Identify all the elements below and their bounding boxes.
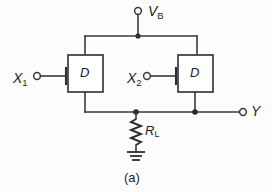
input1-terminal-circle[interactable]	[34, 73, 41, 80]
bottom-drops	[85, 92, 195, 112]
resistor-zigzag-icon	[131, 119, 141, 145]
bias-terminal-label: VB	[148, 4, 164, 20]
output-node-dot	[192, 109, 198, 115]
diode1-label: D	[80, 66, 89, 79]
figure-caption: (a)	[124, 171, 140, 184]
top-bus-rail	[85, 36, 197, 55]
ground-symbol-icon	[127, 152, 145, 160]
load-resistor-symbol[interactable]	[131, 112, 141, 152]
bias-terminal-circle[interactable]	[135, 8, 142, 15]
bias-terminal-group	[135, 8, 142, 39]
input2-terminal-circle[interactable]	[144, 73, 151, 80]
input2-lead-group	[144, 68, 176, 84]
output-terminal-circle[interactable]	[240, 109, 247, 116]
diode2-label: D	[190, 66, 199, 79]
figure-canvas: VB X1 X2 Y RL D D (a)	[0, 0, 272, 192]
input1-label: X1	[13, 71, 28, 87]
output-label: Y	[251, 104, 260, 118]
bottom-bus-rail	[85, 109, 246, 116]
input1-lead-group	[34, 68, 66, 84]
input2-label: X2	[127, 71, 142, 87]
resistor-label: RL	[145, 124, 159, 139]
circuit-schematic	[0, 0, 272, 192]
